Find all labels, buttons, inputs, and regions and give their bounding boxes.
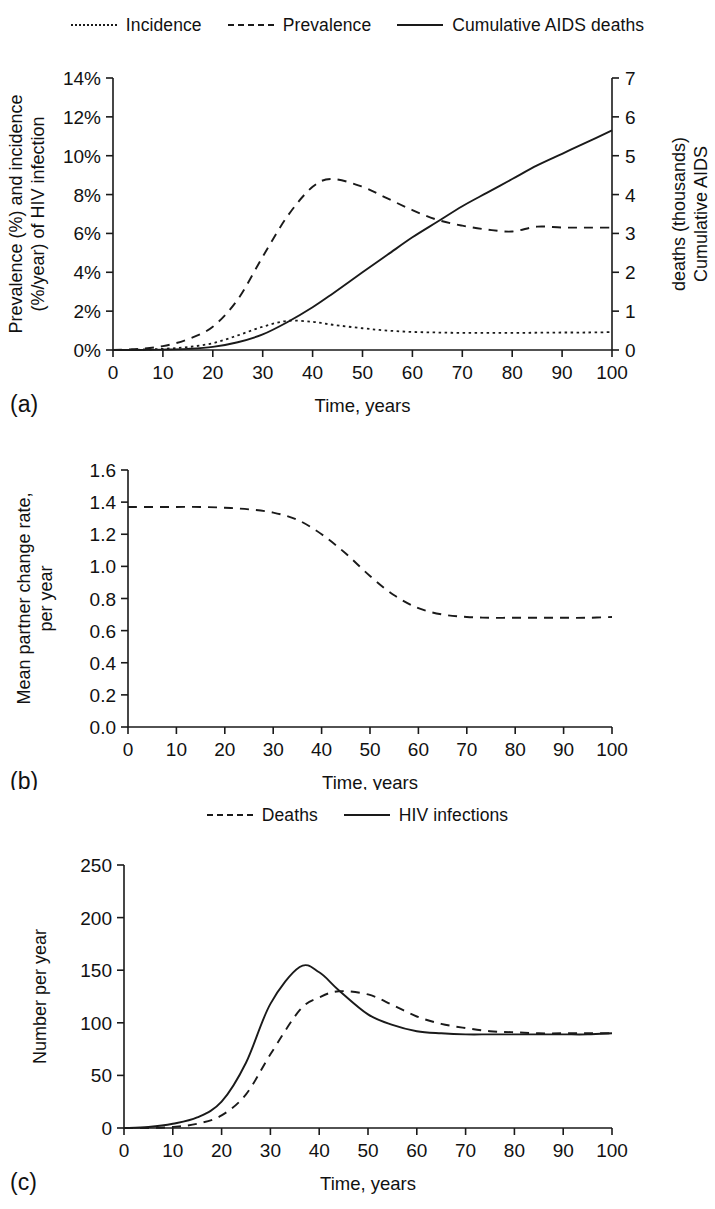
legend-item: Prevalence	[228, 15, 372, 36]
y-tick-label: 0.0	[90, 717, 116, 738]
x-tick-label: 90	[553, 1140, 574, 1161]
x-tick-label: 100	[596, 1140, 628, 1161]
y-tick-label: 1.0	[90, 556, 116, 577]
x-tick-label: 50	[352, 362, 373, 383]
y-tick-label: 1.2	[90, 524, 116, 545]
y2-tick-label: 2	[625, 262, 636, 283]
y-tick-label: 250	[80, 855, 112, 876]
panel-a-chart: 0%2%4%6%8%10%12%14%012345670102030405060…	[0, 38, 715, 430]
y-tick-label: 0.6	[90, 621, 116, 642]
axis-lines	[128, 470, 612, 727]
legend-label: HIV infections	[399, 805, 508, 826]
legend-item: Cumulative AIDS deaths	[397, 15, 644, 36]
x-tick-label: 100	[596, 362, 628, 383]
panel-c-chart: 0501001502002500102030405060708090100Tim…	[0, 828, 715, 1208]
x-tick-label: 60	[408, 739, 429, 760]
panel-b: 0.00.20.40.60.81.01.21.41.60102030405060…	[0, 430, 715, 790]
series-mean-partner-change-rate	[128, 507, 612, 618]
panel-a: IncidencePrevalenceCumulative AIDS death…	[0, 0, 715, 430]
x-tick-label: 40	[302, 362, 323, 383]
x-tick-label: 40	[309, 1140, 330, 1161]
y2-tick-label: 4	[625, 185, 636, 206]
x-tick-label: 60	[406, 1140, 427, 1161]
y-tick-label: 14%	[63, 68, 101, 89]
legend-item: HIV infections	[344, 805, 508, 826]
y2-axis-title-line: deaths (thousands)	[669, 137, 689, 291]
y-tick-label: 0.2	[90, 685, 116, 706]
y-tick-label: 10%	[63, 146, 101, 167]
y-axis-title-line: Number per year	[30, 929, 50, 1064]
series-hiv-infections	[124, 965, 612, 1128]
legend-label: Incidence	[126, 15, 202, 36]
y-tick-label: 0%	[74, 340, 102, 361]
axis-lines	[124, 865, 612, 1128]
x-tick-label: 100	[596, 739, 628, 760]
y-tick-label: 1.6	[90, 460, 116, 481]
y-axis-title-line: (%/year) of HIV infection	[28, 116, 48, 311]
y-tick-label: 0	[101, 1118, 112, 1139]
x-tick-label: 30	[263, 739, 284, 760]
x-tick-label: 20	[214, 739, 235, 760]
series-cumulative-aids-deaths	[113, 130, 612, 350]
y2-tick-label: 5	[625, 146, 636, 167]
x-tick-label: 70	[455, 1140, 476, 1161]
x-tick-label: 70	[452, 362, 473, 383]
legend-item: Incidence	[71, 15, 202, 36]
y2-tick-label: 0	[625, 340, 636, 361]
panel-a-legend: IncidencePrevalenceCumulative AIDS death…	[0, 12, 715, 38]
x-tick-label: 20	[202, 362, 223, 383]
x-tick-label: 0	[123, 739, 134, 760]
x-tick-label: 90	[553, 739, 574, 760]
panel-tag: (a)	[10, 391, 38, 417]
y2-axis-title-line: Cumulative AIDS	[691, 146, 711, 282]
x-tick-label: 50	[357, 1140, 378, 1161]
x-axis-title: Time, years	[320, 1173, 416, 1194]
x-tick-label: 60	[402, 362, 423, 383]
axis-lines	[113, 78, 612, 350]
y-tick-label: 200	[80, 908, 112, 929]
x-tick-label: 50	[359, 739, 380, 760]
x-axis-title: Time, years	[315, 395, 411, 416]
x-tick-label: 40	[311, 739, 332, 760]
series-prevalence	[113, 179, 612, 350]
x-tick-label: 90	[552, 362, 573, 383]
y2-tick-label: 3	[625, 223, 636, 244]
x-tick-label: 80	[502, 362, 523, 383]
y-tick-label: 150	[80, 960, 112, 981]
panel-tag: (b)	[10, 768, 38, 790]
x-tick-label: 10	[162, 1140, 183, 1161]
x-tick-label: 0	[119, 1140, 130, 1161]
legend-label: Cumulative AIDS deaths	[452, 15, 644, 36]
legend-item: Deaths	[207, 805, 318, 826]
legend-swatch-solid-icon	[397, 24, 443, 26]
y-tick-label: 4%	[74, 262, 102, 283]
x-tick-label: 80	[504, 1140, 525, 1161]
legend-swatch-solid-icon	[344, 814, 390, 816]
y-tick-label: 8%	[74, 185, 102, 206]
x-tick-label: 30	[252, 362, 273, 383]
y2-tick-label: 6	[625, 107, 636, 128]
y-axis-title-line: Prevalence (%) and incidence	[6, 94, 26, 333]
x-tick-label: 10	[152, 362, 173, 383]
y-tick-label: 6%	[74, 223, 102, 244]
legend-swatch-dashed-icon	[207, 814, 253, 816]
series-incidence	[113, 321, 612, 350]
legend-label: Prevalence	[283, 15, 372, 36]
y-tick-label: 0.8	[90, 589, 116, 610]
y-tick-label: 0.4	[90, 653, 117, 674]
x-tick-label: 70	[456, 739, 477, 760]
x-axis-title: Time, years	[322, 772, 418, 790]
y-tick-label: 100	[80, 1013, 112, 1034]
y-tick-label: 50	[91, 1065, 112, 1086]
y-axis-title-line: Mean partner change rate,	[14, 492, 34, 704]
panel-b-chart: 0.00.20.40.60.81.01.21.41.60102030405060…	[0, 430, 715, 790]
series-deaths	[124, 991, 612, 1128]
x-tick-label: 0	[108, 362, 119, 383]
panel-c: DeathsHIV infections 0501001502002500102…	[0, 790, 715, 1209]
legend-swatch-dotted-icon	[71, 24, 117, 26]
x-tick-label: 30	[260, 1140, 281, 1161]
y2-tick-label: 7	[625, 68, 636, 89]
y-tick-label: 2%	[74, 301, 102, 322]
x-tick-label: 20	[211, 1140, 232, 1161]
legend-label: Deaths	[262, 805, 318, 826]
